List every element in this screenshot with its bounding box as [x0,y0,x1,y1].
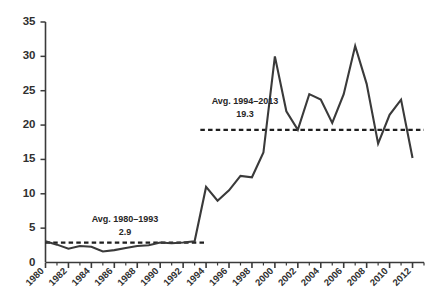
x-tick-label: 2002 [276,265,299,288]
y-tick-label: 5 [29,221,36,233]
x-tick-label: 1998 [230,265,253,288]
y-tick-label: 30 [23,49,36,61]
y-axis-group: 05101520253035 [23,15,46,268]
x-minor-tick-marks [46,263,425,269]
x-tick-label: 2010 [367,265,390,288]
x-axis-group: 1980198219841986198819901992199419961998… [23,263,424,288]
line-chart: 05101520253035 1980198219841986198819901… [0,0,432,303]
x-tick-label: 2012 [390,265,413,288]
x-tick-labels: 1980198219841986198819901992199419961998… [23,265,413,288]
x-tick-label: 1992 [161,265,184,288]
y-tick-label: 0 [29,256,35,268]
y-tick-label: 20 [23,118,36,130]
y-tick-label: 25 [23,84,36,96]
average-reference-lines [46,130,425,243]
y-tick-label: 15 [23,152,36,164]
annotation-value: 19.3 [236,109,254,119]
y-tick-label: 10 [23,187,36,199]
x-tick-label: 1982 [46,265,69,288]
chart-container: 05101520253035 1980198219841986198819901… [0,0,432,303]
x-tick-label: 2006 [321,265,344,288]
x-tick-label: 1980 [23,265,46,288]
y-tick-labels: 05101520253035 [23,15,36,268]
x-tick-label: 1994 [184,265,207,288]
x-tick-label: 1988 [115,265,138,288]
x-tick-label: 1996 [207,265,230,288]
y-tick-label: 35 [23,15,36,27]
x-tick-label: 1986 [92,265,115,288]
x-tick-label: 2004 [298,265,321,288]
x-tick-label: 2000 [253,265,276,288]
x-tick-label: 2008 [344,265,367,288]
annotation-label: Avg. 1994–2013 [212,96,279,106]
x-tick-label: 1990 [138,265,161,288]
annotation-label: Avg. 1980–1993 [92,214,159,224]
x-tick-label: 1984 [69,265,92,288]
annotation-value: 2.9 [119,227,132,237]
annotation-avg-1980-1993: Avg. 1980–1993 2.9 [92,214,159,237]
